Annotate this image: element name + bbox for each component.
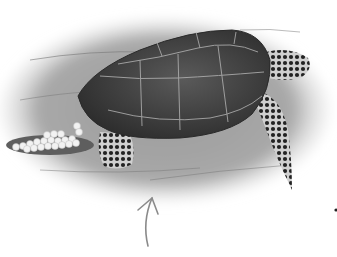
rear-flipper	[99, 132, 134, 169]
turtle-head	[266, 50, 310, 80]
turtle-illustration	[0, 0, 337, 257]
pointer-arrow	[138, 198, 158, 246]
